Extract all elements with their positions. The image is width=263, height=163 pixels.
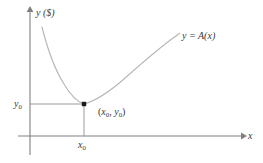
y0-axis-tick-label: y0 <box>14 99 22 109</box>
curve-label-leader-line <box>176 33 180 36</box>
x-axis-label: x <box>248 131 252 141</box>
y-axis-label: y ($) <box>36 8 55 18</box>
figure-canvas <box>0 0 263 163</box>
x0-axis-tick-label: x0 <box>78 140 86 150</box>
cost-curve-path <box>42 27 176 104</box>
minimum-point-coordinate-label: (x0, y0) <box>98 107 125 117</box>
x-axis-arrowhead-icon <box>241 133 247 140</box>
y-axis-arrowhead-icon <box>27 6 34 12</box>
average-cost-curve-figure: y ($) x y = A(x) y0 x0 (x0, y0) <box>0 0 263 163</box>
curve-label: y = A(x) <box>182 31 215 41</box>
minimum-point-marker <box>82 102 86 106</box>
